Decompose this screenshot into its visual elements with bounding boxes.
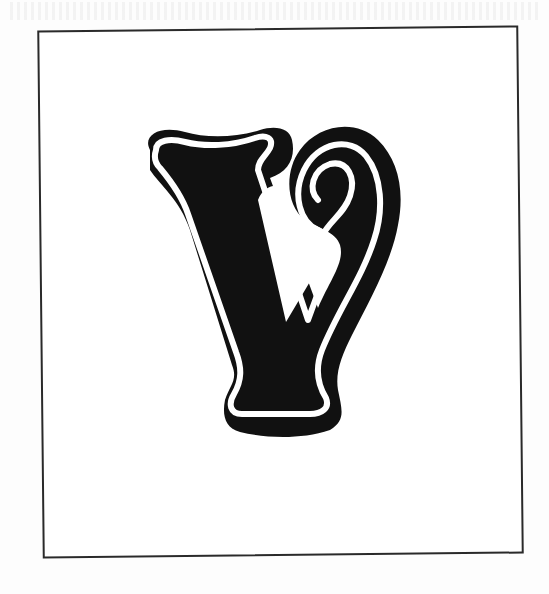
scanned-page: [0, 0, 549, 594]
letter-shadow: [148, 127, 401, 437]
decorative-letter-v: [0, 0, 549, 594]
